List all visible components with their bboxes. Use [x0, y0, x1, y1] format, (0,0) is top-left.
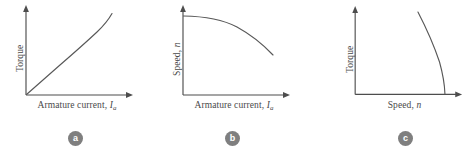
- panel-a-torque-curve: [27, 14, 113, 95]
- panel-c-x-axis-label: Speed, n: [352, 100, 457, 110]
- panel-c: Torque Speed, n: [312, 0, 467, 155]
- panel-a-y-axis-arrow-icon: [23, 5, 29, 12]
- panel-b-y-axis-arrow-icon: [180, 5, 186, 12]
- panel-b-x-axis-label: Armature current, Ia: [169, 100, 299, 112]
- panel-b-x-axis-arrow-icon: [283, 92, 290, 98]
- panel-c-x-axis-label-text: Speed,: [388, 100, 417, 110]
- panel-b-speed-curve: [184, 16, 274, 55]
- panel-b-x-axis-label-subscript: a: [270, 104, 274, 112]
- panel-b-y-axis-label-text: Speed,: [172, 47, 182, 76]
- panel-c-badge: c: [398, 131, 413, 146]
- panel-b-badge: b: [225, 131, 240, 146]
- panel-a-y-axis-label: Torque: [15, 45, 25, 72]
- panel-a-x-axis-label-subscript: a: [113, 104, 117, 112]
- panel-c-x-axis-label-symbol: n: [416, 100, 421, 110]
- panel-b-x-axis-label-text: Armature current,: [194, 100, 266, 110]
- panel-c-x-axis-arrow-icon: [455, 92, 462, 98]
- figure-three-motor-characteristic-curves: Torque Armature current, Ia Speed, n Arm…: [0, 0, 470, 155]
- panel-b-y-axis-label-symbol: n: [172, 42, 182, 47]
- panel-a-x-axis-label-text: Armature current,: [37, 100, 109, 110]
- panel-a-x-axis-label: Armature current, Ia: [12, 100, 142, 112]
- panel-b-y-axis-label: Speed, n: [172, 42, 182, 76]
- panel-c-y-axis-label: Torque: [345, 46, 355, 73]
- panel-c-torque-speed-curve: [418, 12, 445, 94]
- panel-a-badge: a: [68, 131, 83, 146]
- panel-a-x-axis-arrow-icon: [126, 92, 133, 98]
- panel-c-y-axis-arrow-icon: [352, 6, 358, 13]
